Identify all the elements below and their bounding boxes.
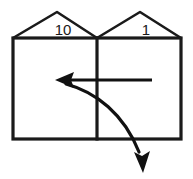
place-value-diagram: 10 1 xyxy=(0,0,193,179)
ones-column-roof xyxy=(97,12,181,38)
tens-column-label: 10 xyxy=(55,21,72,38)
curved-down-arrow-head xyxy=(134,151,150,173)
curved-down-arrow-shaft xyxy=(66,84,139,152)
ones-column-label: 1 xyxy=(142,21,150,38)
curved-down-arrow xyxy=(66,84,150,173)
diagram-canvas: 10 1 xyxy=(0,0,193,179)
